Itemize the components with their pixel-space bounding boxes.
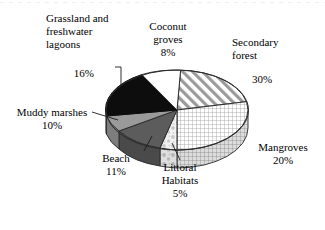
pie-top-face <box>105 70 248 150</box>
label-grassland-percent: 16% <box>60 67 94 80</box>
label-coconut-groves: Coconut groves 8% <box>131 20 205 58</box>
label-beach: Beach 11% <box>88 152 144 178</box>
label-grassland-lagoons: Grassland and freshwater lagoons <box>46 12 138 50</box>
label-secondary-forest: Secondary forest <box>232 36 318 62</box>
pie-chart-figure: Grassland and freshwater lagoons 16% Coc… <box>0 0 325 230</box>
label-muddy-marshes: Muddy marshes 10% <box>4 106 100 132</box>
label-littoral-habitats: Littoral Habitats 5% <box>146 161 214 199</box>
leader-grassland <box>115 67 121 86</box>
label-mangroves: Mangroves 20% <box>243 141 323 167</box>
label-secondary-percent: 30% <box>252 73 296 86</box>
